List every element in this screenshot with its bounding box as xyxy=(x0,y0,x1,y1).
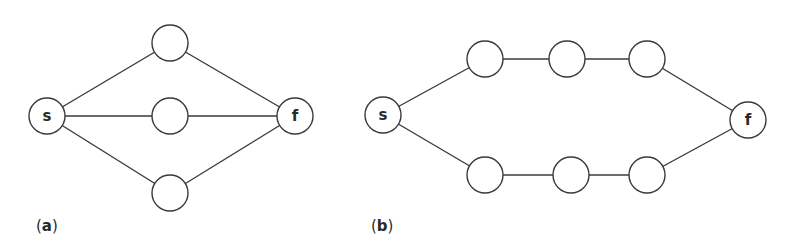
edge-s-bot xyxy=(47,116,170,193)
node-t1 xyxy=(467,41,503,77)
node-label-s: s xyxy=(43,107,52,125)
node-bot xyxy=(152,175,188,211)
graph-diagram: sf sf xyxy=(0,0,799,250)
panel-b-graph: sf xyxy=(365,41,766,193)
node-t3 xyxy=(629,41,665,77)
node-b2 xyxy=(553,157,589,193)
node-label-f: f xyxy=(745,111,752,129)
node-label-s: s xyxy=(379,106,388,124)
edge-bot-f xyxy=(170,116,295,193)
node-b3 xyxy=(629,157,665,193)
node-label-f: f xyxy=(292,107,299,125)
node-t2 xyxy=(549,41,585,77)
panel-a-graph: sf xyxy=(29,25,313,211)
panel-b-label: (b) xyxy=(371,217,393,235)
node-b1 xyxy=(467,157,503,193)
node-top xyxy=(152,25,188,61)
panel-a-label: (a) xyxy=(36,217,58,235)
node-mid xyxy=(152,98,188,134)
edge-s-top xyxy=(47,43,170,116)
edge-top-f xyxy=(170,43,295,116)
